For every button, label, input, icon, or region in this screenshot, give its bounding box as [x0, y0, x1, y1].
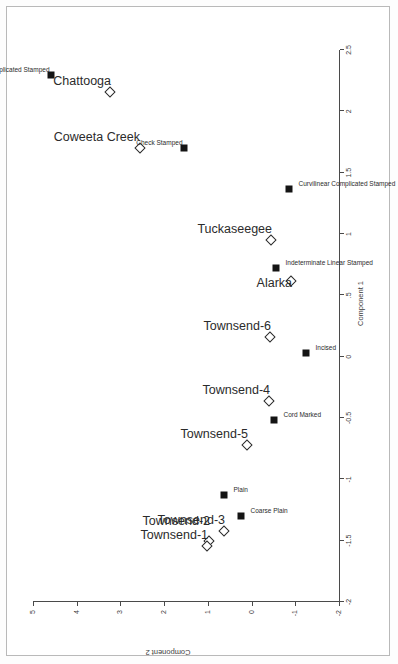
x-tick	[340, 49, 344, 50]
data-point-diamond[interactable]	[266, 234, 277, 245]
y-tick	[120, 602, 121, 606]
point-label: Townsend-2	[142, 514, 209, 528]
point-label: Alarka	[256, 276, 291, 290]
y-tick	[339, 602, 340, 606]
y-tick	[208, 602, 209, 606]
x-tick	[340, 294, 344, 295]
x-tick-label: 2	[345, 109, 353, 113]
x-tick-label: -0.5	[345, 412, 353, 424]
x-axis-line	[339, 50, 340, 602]
x-tick	[340, 110, 344, 111]
data-point-square[interactable]	[285, 185, 292, 192]
x-tick	[340, 172, 344, 173]
y-tick-label: 1	[204, 610, 212, 614]
point-label: Townsend-1	[140, 528, 207, 542]
x-tick-label: -2	[345, 599, 353, 605]
point-label: Indeterminate Linear Stamped	[285, 259, 372, 266]
point-label: Chattooga	[53, 74, 111, 88]
point-label: Townsend-5	[181, 427, 248, 441]
y-tick	[252, 602, 253, 606]
x-tick-label: 1	[345, 232, 353, 236]
point-label: Tuckaseegee	[198, 222, 273, 236]
x-tick-label: 1.5	[345, 168, 353, 178]
x-tick	[340, 478, 344, 479]
x-tick-label: 0	[345, 355, 353, 359]
point-label: Curvilinear Complicated Stamped	[298, 180, 395, 187]
x-tick-label: 2.5	[345, 45, 353, 55]
y-tick-label: -1	[291, 610, 299, 616]
y-tick-label: 4	[73, 610, 81, 614]
data-point-square[interactable]	[271, 417, 278, 424]
figure-page: -2-1.5-1-0.50.511.522.5 -2-1012345 Chatt…	[0, 0, 398, 664]
y-tick	[295, 602, 296, 606]
data-point-diamond[interactable]	[265, 331, 276, 342]
y-tick	[33, 602, 34, 606]
point-label: Check Stamped	[136, 139, 182, 146]
point-label: Plain	[234, 486, 248, 493]
x-tick	[340, 540, 344, 541]
point-label: Incised	[316, 344, 337, 351]
data-point-square[interactable]	[272, 265, 279, 272]
y-tick-label: 5	[29, 610, 37, 614]
y-tick-label: 0	[248, 610, 256, 614]
point-label: Coarse Plain	[251, 507, 288, 514]
point-label: Townsend-4	[203, 383, 270, 397]
data-point-diamond[interactable]	[242, 439, 253, 450]
x-tick-label: -1.5	[345, 535, 353, 547]
x-tick	[340, 356, 344, 357]
y-tick	[164, 602, 165, 606]
x-tick-label: .5	[345, 292, 353, 298]
data-point-square[interactable]	[221, 492, 228, 499]
y-axis-title: Component 2	[145, 648, 190, 657]
y-tick-label: 2	[160, 610, 168, 614]
data-point-square[interactable]	[238, 513, 245, 520]
point-label: Coweeta Creek	[54, 130, 140, 144]
y-axis-line	[33, 601, 340, 602]
y-tick	[77, 602, 78, 606]
x-tick-label: -1	[345, 476, 353, 482]
x-tick	[340, 417, 344, 418]
point-label: Rectilinear Complicated Stamped	[0, 66, 50, 73]
x-tick	[340, 601, 344, 602]
point-label: Townsend-6	[204, 319, 271, 333]
point-label: Cord Marked	[284, 411, 322, 418]
x-tick	[340, 233, 344, 234]
scatter-plot: -2-1.5-1-0.50.511.522.5 -2-1012345 Chatt…	[23, 28, 375, 636]
x-axis-title: Component 1	[356, 281, 365, 326]
y-tick-label: 3	[116, 610, 124, 614]
data-point-square[interactable]	[303, 350, 310, 357]
y-tick-label: -2	[335, 610, 343, 616]
